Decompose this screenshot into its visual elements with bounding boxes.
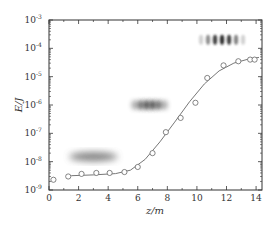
- x-tick-label: 14: [250, 193, 262, 203]
- beam-spot: [131, 100, 138, 110]
- beam-spot: [155, 100, 162, 110]
- measured-points: [51, 57, 257, 182]
- y-tick-exponent: -9: [36, 183, 42, 190]
- x-tick-label: 10: [191, 193, 203, 203]
- x-tick-labels: 02468101214: [46, 193, 262, 203]
- y-tick-exponent: -4: [36, 41, 42, 48]
- data-point: [221, 63, 226, 68]
- y-tick-exponent: -5: [36, 70, 42, 77]
- y-tick-exponent: -8: [36, 155, 42, 162]
- data-point: [122, 169, 127, 174]
- beam-spot: [199, 35, 203, 45]
- y-tick-label: 10: [25, 72, 37, 82]
- beam-spot: [206, 35, 210, 45]
- x-tick-label: 6: [135, 193, 141, 203]
- y-tick-exponent: -6: [36, 98, 42, 105]
- data-point: [205, 75, 210, 80]
- y-tick-label: 10: [25, 157, 37, 167]
- x-axis-label: z/m: [145, 205, 164, 216]
- data-point: [236, 59, 241, 64]
- y-tick-label: 10: [25, 100, 37, 110]
- data-point: [178, 115, 183, 120]
- x-tick-label: 4: [105, 193, 111, 203]
- beam-spot: [137, 100, 144, 110]
- x-tick-label: 8: [164, 193, 170, 203]
- y-axis-label: E/J: [13, 97, 24, 114]
- data-point: [94, 170, 99, 175]
- x-tick-label: 12: [221, 193, 232, 203]
- beam-spot: [69, 152, 117, 161]
- data-point: [135, 164, 140, 169]
- beam-spot: [227, 35, 231, 45]
- x-tick-label: 0: [46, 193, 52, 203]
- y-tick-label: 10: [25, 43, 37, 53]
- beam-spot: [143, 100, 150, 110]
- y-tick-exponent: -7: [36, 126, 42, 133]
- beam-spot: [241, 35, 245, 45]
- data-point: [51, 177, 56, 182]
- data-point: [79, 171, 84, 176]
- beam-spot: [220, 35, 224, 45]
- y-tick-label: 10: [25, 128, 37, 138]
- beam-profile-images: [69, 35, 245, 161]
- data-point: [107, 170, 112, 175]
- data-point: [252, 57, 257, 62]
- beam-spot: [234, 35, 238, 45]
- data-point: [66, 174, 71, 179]
- beam-spot: [161, 100, 168, 110]
- chart: 02468101214 10-910-810-710-610-510-410-3…: [0, 0, 276, 225]
- beam-spot: [213, 35, 217, 45]
- y-tick-labels: 10-910-810-710-610-510-410-3: [25, 13, 42, 195]
- data-point: [150, 151, 155, 156]
- data-point: [163, 130, 168, 135]
- x-tick-label: 2: [76, 193, 82, 203]
- y-tick-exponent: -3: [36, 13, 42, 20]
- beam-spot: [149, 100, 156, 110]
- y-tick-label: 10: [25, 185, 37, 195]
- y-tick-label: 10: [25, 15, 37, 25]
- data-point: [193, 100, 198, 105]
